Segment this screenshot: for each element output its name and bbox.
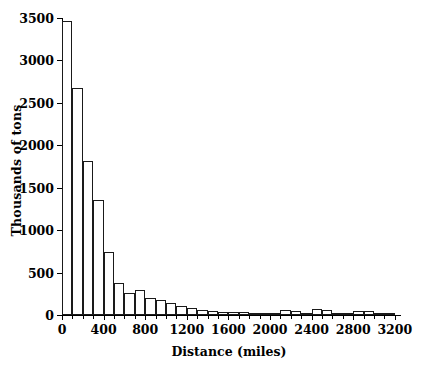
x-axis-tick-label: 2400 (294, 322, 329, 337)
histogram-bar (135, 290, 145, 315)
x-axis-minor-tick (249, 315, 250, 319)
x-axis-major-tick (104, 315, 105, 320)
histogram-bar (114, 283, 124, 315)
x-axis-minor-tick (124, 315, 125, 319)
x-axis-minor-tick (332, 315, 333, 319)
histogram-bar (166, 303, 176, 315)
x-axis-minor-tick (114, 315, 115, 319)
histogram-bar (72, 88, 82, 315)
histogram-bar (301, 313, 311, 315)
histogram-bar (83, 161, 93, 315)
histogram-bar (218, 312, 228, 315)
histogram-bar (156, 300, 166, 315)
histogram-bar (208, 311, 218, 315)
x-axis-minor-tick (239, 315, 240, 319)
histogram-bar (353, 311, 363, 315)
y-axis-tick (57, 60, 62, 61)
x-axis-tick-label: 2000 (253, 322, 288, 337)
histogram-bar (322, 310, 332, 315)
histogram-bar (176, 306, 186, 315)
x-axis-minor-tick (83, 315, 84, 319)
histogram-bar (270, 313, 280, 315)
x-axis-tick-label: 1200 (169, 322, 204, 337)
x-axis-tick-label: 800 (132, 322, 158, 337)
x-axis-tick-label: 400 (91, 322, 117, 337)
y-axis-tick (57, 103, 62, 104)
x-axis-minor-tick (322, 315, 323, 319)
histogram-bar (228, 312, 238, 315)
y-axis-tick-label: 3500 (19, 11, 54, 26)
x-axis-minor-tick (218, 315, 219, 319)
histogram-bar (104, 252, 114, 315)
histogram-bar (249, 313, 259, 315)
x-axis-major-tick (353, 315, 354, 320)
y-axis-tick-label: 1000 (19, 223, 54, 238)
y-axis-tick (57, 230, 62, 231)
x-axis-minor-tick (197, 315, 198, 319)
y-axis-tick-label: 3000 (19, 53, 54, 68)
x-axis-minor-tick (135, 315, 136, 319)
histogram-bar (124, 293, 134, 315)
x-axis-minor-tick (208, 315, 209, 319)
x-axis-minor-tick (343, 315, 344, 319)
histogram-bar (364, 311, 374, 315)
y-axis-tick-label: 2000 (19, 138, 54, 153)
histogram-bar (280, 310, 290, 315)
x-axis-minor-tick (93, 315, 94, 319)
plot-area (62, 18, 400, 315)
y-axis-tick-label: 500 (28, 265, 54, 280)
histogram-bar (62, 21, 72, 315)
histogram-bar (93, 200, 103, 315)
x-axis-major-tick (187, 315, 188, 320)
x-axis-minor-tick (176, 315, 177, 319)
x-axis-minor-tick (301, 315, 302, 319)
histogram-bar (187, 308, 197, 315)
histogram-bar (239, 312, 249, 315)
histogram-bar (291, 311, 301, 315)
y-axis-tick-label: 0 (45, 308, 54, 323)
x-axis-tick-label: 0 (58, 322, 67, 337)
x-axis-minor-tick (291, 315, 292, 319)
x-axis-major-tick (270, 315, 271, 320)
x-axis-major-tick (62, 315, 63, 320)
histogram-bar (312, 309, 322, 315)
x-axis-minor-tick (72, 315, 73, 319)
histogram-bar (197, 310, 207, 315)
y-axis-tick-label: 1500 (19, 180, 54, 195)
y-axis-tick (57, 273, 62, 274)
x-axis-tick-label: 3200 (377, 322, 412, 337)
x-axis-major-tick (312, 315, 313, 320)
histogram-bar (260, 313, 270, 315)
x-axis-minor-tick (364, 315, 365, 319)
y-axis-tick (57, 188, 62, 189)
x-axis-minor-tick (384, 315, 385, 319)
histogram-figure: Thousands of tons Distance (miles) 05001… (0, 0, 423, 366)
y-axis-tick (57, 145, 62, 146)
x-axis-major-tick (145, 315, 146, 320)
x-axis-minor-tick (260, 315, 261, 319)
histogram-bar (332, 313, 342, 315)
histogram-bar (145, 298, 155, 315)
bar-series (62, 18, 400, 315)
x-axis-tick-label: 2800 (336, 322, 371, 337)
histogram-bar (384, 313, 394, 315)
x-axis-tick-label: 1600 (211, 322, 246, 337)
x-axis-minor-tick (166, 315, 167, 319)
x-axis-minor-tick (374, 315, 375, 319)
histogram-bar (374, 313, 384, 315)
y-axis-tick (57, 18, 62, 19)
x-axis-minor-tick (156, 315, 157, 319)
x-axis-line (62, 315, 401, 316)
y-axis-tick-label: 2500 (19, 95, 54, 110)
x-axis-minor-tick (280, 315, 281, 319)
histogram-bar (343, 313, 353, 315)
x-axis-major-tick (228, 315, 229, 320)
x-axis-major-tick (395, 315, 396, 320)
x-axis-title: Distance (miles) (55, 344, 403, 359)
